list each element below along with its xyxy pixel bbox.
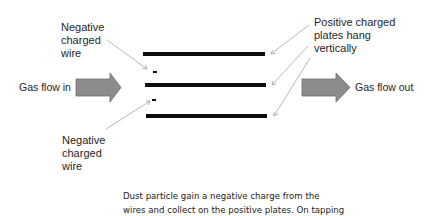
positive-plate-bottom — [146, 114, 267, 118]
label-negative-wire-bottom: Negative charged wire — [62, 134, 105, 173]
negative-wire-bottom-mark — [152, 99, 156, 101]
label-negative-wire-top: Negative charged wire — [61, 21, 104, 60]
positive-plate-middle — [145, 83, 266, 87]
label-gas-flow-out: Gas flow out — [355, 81, 413, 94]
negative-wire-top-mark — [153, 71, 157, 73]
caption-line-1: Dust particle gain a negative charge fro… — [123, 189, 423, 203]
caption: Dust particle gain a negative charge fro… — [123, 189, 423, 216]
gas-flow-out-arrow — [302, 73, 350, 102]
positive-plate-top — [143, 52, 265, 56]
caption-line-2: wires and collect on the positive plates… — [123, 203, 423, 216]
gas-flow-in-arrow — [76, 73, 121, 102]
pointer-plate-top — [271, 25, 309, 54]
pointer-negative-wire-bottom — [106, 101, 150, 129]
label-gas-flow-in: Gas flow in — [19, 81, 71, 94]
label-positive-plates: Positive charged plates hang vertically — [314, 16, 395, 55]
pointer-negative-wire-top — [107, 40, 147, 69]
